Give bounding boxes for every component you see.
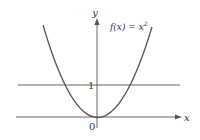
parabola-graph: y x 1 0 f(x) = x2 [0,0,200,140]
y-axis-label: y [91,7,98,18]
svg-text:f(x) = x2: f(x) = x2 [109,20,148,32]
x-axis-label: x [184,112,190,123]
func-exponent: 2 [143,20,148,27]
origin-label: 0 [89,121,95,132]
parabola-curve [43,25,152,118]
tick-label-one: 1 [88,80,94,91]
func-body: (x) = x [113,22,143,32]
y-axis-arrow-icon [95,18,100,25]
x-axis-arrow-icon [175,115,182,120]
function-label: f(x) = x2 [109,20,148,32]
